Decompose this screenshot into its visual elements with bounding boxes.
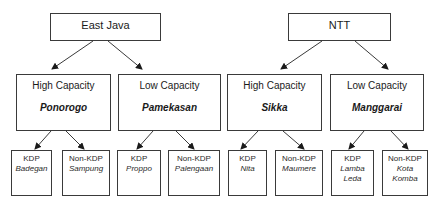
district-name: Manggarai <box>331 102 423 113</box>
leaf-proppo: KDP Proppo <box>117 150 161 196</box>
leaf-palengaan: Non-KDP Palengaan <box>168 150 220 196</box>
region-label: East Java <box>81 19 129 31</box>
capacity-east-java-low: Low Capacity Pamekasan <box>118 74 221 131</box>
capacity-label: Low Capacity <box>119 80 220 91</box>
program-type: Non-KDP <box>276 154 322 164</box>
region-ntt: NTT <box>288 13 391 41</box>
program-type: KDP <box>12 154 51 164</box>
leaf-sampung: Non-KDP Sampung <box>62 150 110 196</box>
leaf-maumere: Non-KDP Maumere <box>275 150 323 196</box>
leaf-kota-komba: Non-KDP Kota Komba <box>382 150 428 196</box>
program-type: KDP <box>229 154 266 164</box>
subdistrict-name: Lamba Leda <box>332 164 373 184</box>
leaf-nita: KDP Nita <box>228 150 267 196</box>
program-type: Non-KDP <box>383 154 427 164</box>
subdistrict-name: Kota Komba <box>383 164 427 184</box>
capacity-ntt-high: High Capacity Sikka <box>227 74 322 131</box>
program-type: Non-KDP <box>63 154 109 164</box>
capacity-label: High Capacity <box>17 80 110 91</box>
subdistrict-name: Nita <box>229 164 266 174</box>
region-east-java: East Java <box>50 13 161 41</box>
subdistrict-name: Badegan <box>12 164 51 174</box>
subdistrict-name: Maumere <box>276 164 322 174</box>
program-type: KDP <box>118 154 160 164</box>
capacity-ntt-low: Low Capacity Manggarai <box>330 74 424 131</box>
capacity-label: High Capacity <box>228 80 321 91</box>
subdistrict-name: Proppo <box>118 164 160 174</box>
region-label: NTT <box>329 19 350 31</box>
district-name: Ponorogo <box>17 102 110 113</box>
subdistrict-name: Palengaan <box>169 164 219 174</box>
capacity-east-java-high: High Capacity Ponorogo <box>16 74 111 131</box>
capacity-label: Low Capacity <box>331 80 423 91</box>
program-type: KDP <box>332 154 373 164</box>
program-type: Non-KDP <box>169 154 219 164</box>
leaf-badegan: KDP Badegan <box>11 150 52 196</box>
district-name: Sikka <box>228 102 321 113</box>
district-name: Pamekasan <box>119 102 220 113</box>
leaf-lamba-leda: KDP Lamba Leda <box>331 150 374 196</box>
subdistrict-name: Sampung <box>63 164 109 174</box>
